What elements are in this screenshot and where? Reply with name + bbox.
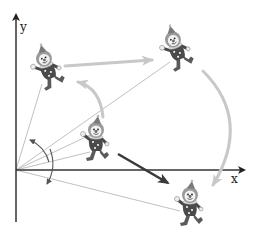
clown-top-right [153,21,196,74]
clown-upper-left [24,40,67,93]
light-arrows [65,60,230,185]
translation-arrow [65,60,152,66]
clown-bottom-right [175,180,204,226]
rotation-arc-arrow [203,71,230,185]
direct-arrow [118,154,168,183]
axes [16,15,244,222]
guide-line-upper-left [16,84,42,170]
x-axis-label: x [231,173,238,185]
y-axis-label: y [20,21,27,33]
diagram-canvas [0,0,255,241]
